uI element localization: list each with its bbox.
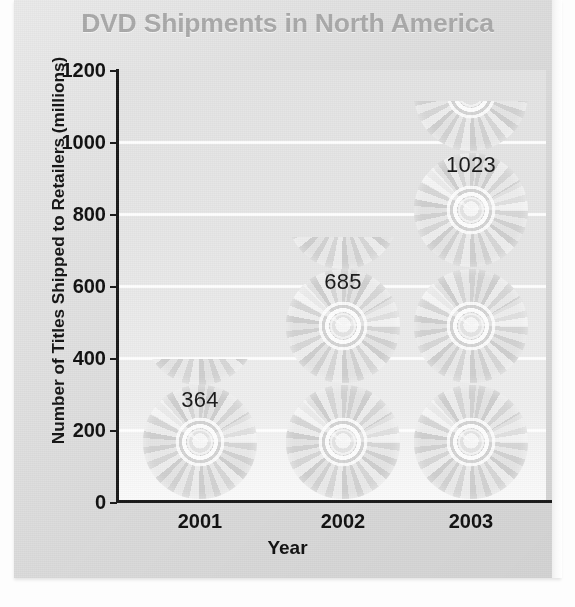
x-tick-label-2003: 2003 bbox=[401, 510, 541, 533]
figure-page: DVD Shipments in North America Number of… bbox=[0, 0, 575, 607]
value-label-2003: 1023 bbox=[403, 152, 539, 178]
y-tick-label: 800 bbox=[73, 203, 106, 226]
y-tick-label: 0 bbox=[95, 491, 106, 514]
x-tick-label-2001: 2001 bbox=[130, 510, 270, 533]
panel-edge-highlight bbox=[552, 0, 562, 578]
y-tick-label: 1000 bbox=[62, 131, 107, 154]
y-tick-label: 200 bbox=[73, 419, 106, 442]
plot-area: 364 685 1023 1200 1000 800 600 bbox=[116, 56, 546, 501]
x-axis-title: Year bbox=[14, 537, 561, 559]
value-label-2002: 685 bbox=[275, 269, 411, 295]
dvd-disc-partial-icon bbox=[286, 237, 400, 269]
dvd-disc-icon bbox=[286, 385, 400, 499]
y-tick-label: 600 bbox=[73, 275, 106, 298]
chart-title: DVD Shipments in North America bbox=[14, 8, 561, 39]
chart-panel: DVD Shipments in North America Number of… bbox=[14, 0, 561, 578]
dvd-disc-icon bbox=[414, 385, 528, 499]
column-2003 bbox=[403, 70, 539, 501]
dvd-disc-icon bbox=[414, 269, 528, 383]
x-tick-label-2002: 2002 bbox=[273, 510, 413, 533]
x-axis-line bbox=[116, 500, 559, 503]
y-tick-label: 1200 bbox=[62, 59, 107, 82]
y-tick-label: 400 bbox=[73, 347, 106, 370]
dvd-disc-partial-icon bbox=[143, 359, 257, 385]
y-axis-title: Number of Titles Shipped to Retailers (m… bbox=[48, 31, 69, 471]
column-2001 bbox=[132, 70, 268, 501]
dvd-disc-partial-icon bbox=[414, 101, 528, 151]
value-label-2001: 364 bbox=[132, 387, 268, 413]
